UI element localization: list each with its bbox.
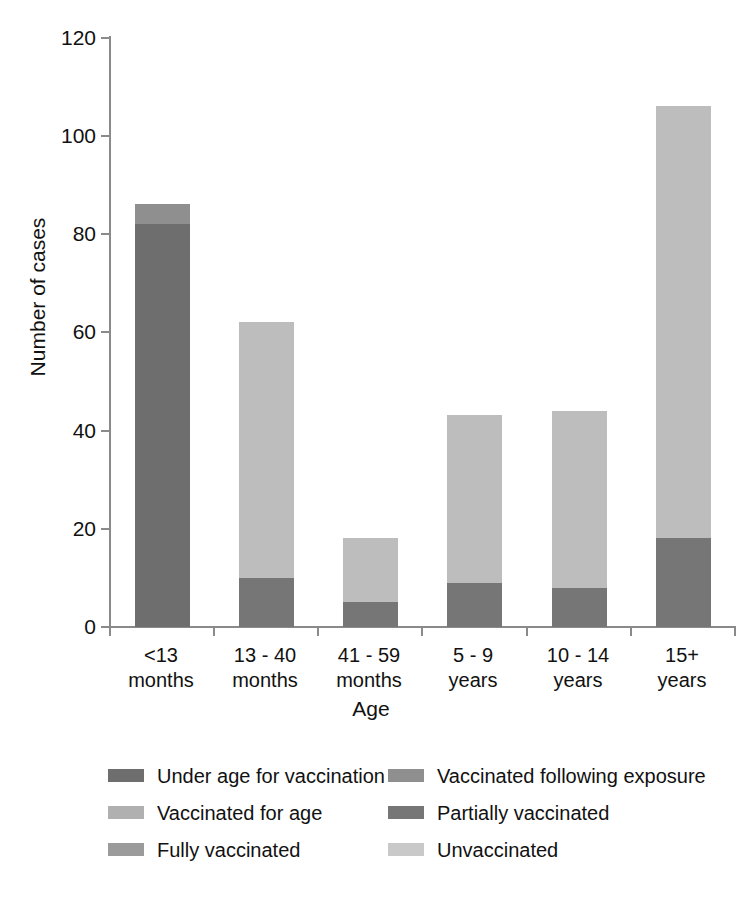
bar-segment-partially-vaccinated bbox=[447, 583, 502, 627]
x-category-label-1-line1: 13 - 40 bbox=[213, 643, 317, 668]
bar-group-0[interactable] bbox=[135, 204, 190, 627]
y-tick-label-120: 120 bbox=[16, 27, 96, 48]
legend-swatch-icon bbox=[108, 769, 144, 782]
x-category-label-4-line1: 10 - 14 bbox=[526, 643, 630, 668]
y-tick-80 bbox=[101, 233, 110, 235]
y-tick-120 bbox=[101, 37, 110, 39]
legend: Under age for vaccination Vaccinated fol… bbox=[108, 757, 708, 868]
x-category-label-2-line2: months bbox=[317, 668, 421, 693]
bar-segment-unvaccinated bbox=[447, 415, 502, 583]
y-tick-60 bbox=[101, 331, 110, 333]
bar-segment-unvaccinated bbox=[239, 322, 294, 578]
legend-item-under-age-for-vaccination[interactable]: Under age for vaccination bbox=[108, 757, 385, 794]
x-tick-3 bbox=[421, 627, 423, 636]
y-tick-40 bbox=[101, 430, 110, 432]
x-category-label-4-line2: years bbox=[526, 668, 630, 693]
bar-segment-unvaccinated bbox=[552, 411, 607, 588]
x-category-label-5-line1: 15+ bbox=[630, 643, 734, 668]
bar-segment-partially-vaccinated bbox=[656, 538, 711, 627]
legend-row-2: Fully vaccinated Unvaccinated bbox=[108, 831, 708, 868]
x-tick-5 bbox=[630, 627, 632, 636]
y-tick-100 bbox=[101, 135, 110, 137]
x-category-label-0-line2: months bbox=[109, 668, 213, 693]
bar-group-1[interactable] bbox=[239, 322, 294, 627]
legend-row-1: Vaccinated for age Partially vaccinated bbox=[108, 794, 708, 831]
legend-swatch-icon bbox=[388, 843, 424, 856]
bar-segment-unvaccinated bbox=[656, 106, 711, 538]
legend-item-partially-vaccinated[interactable]: Partially vaccinated bbox=[388, 794, 609, 831]
chart-page: 0 20 40 60 80 100 120 Number of cases Ag… bbox=[0, 0, 742, 906]
bar-group-4[interactable] bbox=[552, 411, 607, 627]
x-category-label-0: <13 months bbox=[109, 643, 213, 693]
legend-item-vaccinated-for-age[interactable]: Vaccinated for age bbox=[108, 794, 322, 831]
bar-segment-unvaccinated bbox=[343, 538, 398, 602]
legend-label-under-age-for-vaccination: Under age for vaccination bbox=[157, 766, 385, 786]
plot-area bbox=[110, 37, 735, 627]
bar-group-5[interactable] bbox=[656, 106, 711, 627]
legend-label-fully-vaccinated: Fully vaccinated bbox=[157, 840, 300, 860]
x-category-label-0-line1: <13 bbox=[109, 643, 213, 668]
legend-swatch-icon bbox=[388, 806, 424, 819]
x-category-label-3-line2: years bbox=[421, 668, 525, 693]
bar-segment-under-age-for-vaccination bbox=[135, 224, 190, 627]
y-tick-label-0: 0 bbox=[16, 616, 96, 637]
x-category-label-3: 5 - 9 years bbox=[421, 643, 525, 693]
legend-label-vaccinated-following-exposure: Vaccinated following exposure bbox=[437, 766, 706, 786]
bar-segment-unvaccinated bbox=[135, 204, 190, 224]
bar-group-3[interactable] bbox=[447, 415, 502, 627]
bar-segment-partially-vaccinated bbox=[343, 602, 398, 627]
x-tick-end bbox=[734, 627, 736, 636]
legend-item-vaccinated-following-exposure[interactable]: Vaccinated following exposure bbox=[388, 757, 706, 794]
x-category-label-3-line1: 5 - 9 bbox=[421, 643, 525, 668]
x-axis-title: Age bbox=[0, 697, 742, 721]
x-category-label-5-line2: years bbox=[630, 668, 734, 693]
x-category-label-4: 10 - 14 years bbox=[526, 643, 630, 693]
x-tick-1 bbox=[213, 627, 215, 636]
x-tick-2 bbox=[317, 627, 319, 636]
x-tick-start bbox=[109, 627, 111, 636]
legend-item-unvaccinated[interactable]: Unvaccinated bbox=[388, 831, 558, 868]
y-tick-label-20: 20 bbox=[16, 518, 96, 539]
x-category-label-2: 41 - 59 months bbox=[317, 643, 421, 693]
x-category-label-5: 15+ years bbox=[630, 643, 734, 693]
x-tick-4 bbox=[526, 627, 528, 636]
legend-swatch-icon bbox=[108, 806, 144, 819]
bar-segment-partially-vaccinated bbox=[552, 588, 607, 627]
x-category-label-1: 13 - 40 months bbox=[213, 643, 317, 693]
legend-item-fully-vaccinated[interactable]: Fully vaccinated bbox=[108, 831, 300, 868]
y-axis-title: Number of cases bbox=[26, 137, 50, 457]
x-category-label-1-line2: months bbox=[213, 668, 317, 693]
legend-label-partially-vaccinated: Partially vaccinated bbox=[437, 803, 609, 823]
legend-swatch-icon bbox=[388, 769, 424, 782]
bar-segment-partially-vaccinated bbox=[239, 578, 294, 627]
legend-label-vaccinated-for-age: Vaccinated for age bbox=[157, 803, 322, 823]
bar-group-2[interactable] bbox=[343, 538, 398, 627]
legend-label-unvaccinated: Unvaccinated bbox=[437, 840, 558, 860]
y-tick-20 bbox=[101, 528, 110, 530]
x-category-label-2-line1: 41 - 59 bbox=[317, 643, 421, 668]
legend-swatch-icon bbox=[108, 843, 144, 856]
legend-row-0: Under age for vaccination Vaccinated fol… bbox=[108, 757, 708, 794]
